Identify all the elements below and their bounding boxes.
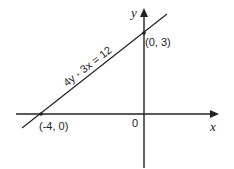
y-axis-label: y [129, 5, 137, 20]
origin-label: 0 [132, 117, 138, 129]
equation-line [22, 14, 167, 128]
coordinate-diagram: y x 0 (0, 3) (-4, 0) 4y - 3x = 12 [0, 0, 234, 169]
x-intercept-point [39, 112, 43, 116]
y-intercept-point [142, 31, 146, 35]
y-axis-arrow-icon [140, 8, 148, 17]
x-intercept-label: (-4, 0) [39, 120, 68, 132]
y-intercept-label: (0, 3) [145, 36, 171, 48]
x-axis-label: x [209, 119, 216, 134]
x-axis-arrow-icon [210, 110, 219, 118]
equation-label: 4y - 3x = 12 [61, 44, 114, 89]
